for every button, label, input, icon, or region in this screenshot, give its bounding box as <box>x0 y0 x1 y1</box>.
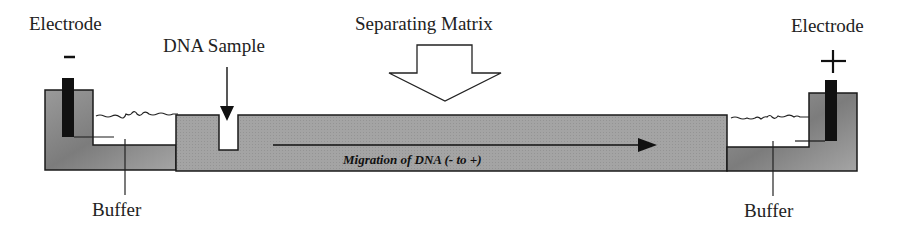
separating-matrix-arrow <box>389 45 501 101</box>
right-buffer-label: Buffer <box>744 200 793 222</box>
dna-sample-arrow <box>220 106 234 121</box>
left-electrode-label: Electrode <box>29 13 102 35</box>
right-buffer-surface <box>731 115 809 119</box>
left-buffer-label: Buffer <box>92 199 141 221</box>
right-electrode <box>825 80 837 141</box>
left-electrode <box>62 78 74 137</box>
migration-label: Migration of DNA (- to +) <box>342 152 482 167</box>
left-buffer-surface <box>96 112 178 118</box>
dna-sample-label: DNA Sample <box>163 35 265 57</box>
separating-matrix-label: Separating Matrix <box>355 13 493 35</box>
right-buffer-tank <box>727 93 857 171</box>
right-electrode-label: Electrode <box>791 15 864 37</box>
